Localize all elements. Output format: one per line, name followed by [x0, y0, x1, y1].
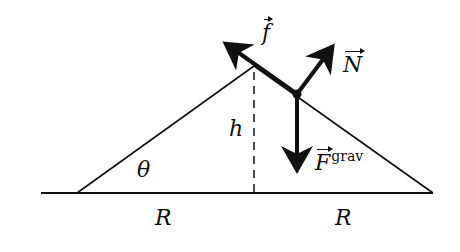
radius-left-label: R [155, 207, 172, 229]
friction-arrow [229, 46, 297, 94]
height-label: h [229, 118, 243, 140]
radius-right-label: R [335, 207, 352, 229]
friction-label: f [262, 22, 270, 44]
normal-label: N [343, 54, 362, 76]
gravity-label: Fgrav [315, 152, 363, 174]
normal-arrow [297, 50, 330, 94]
angle-theta-label: θ [137, 159, 150, 181]
hill-left-slope [77, 66, 254, 193]
